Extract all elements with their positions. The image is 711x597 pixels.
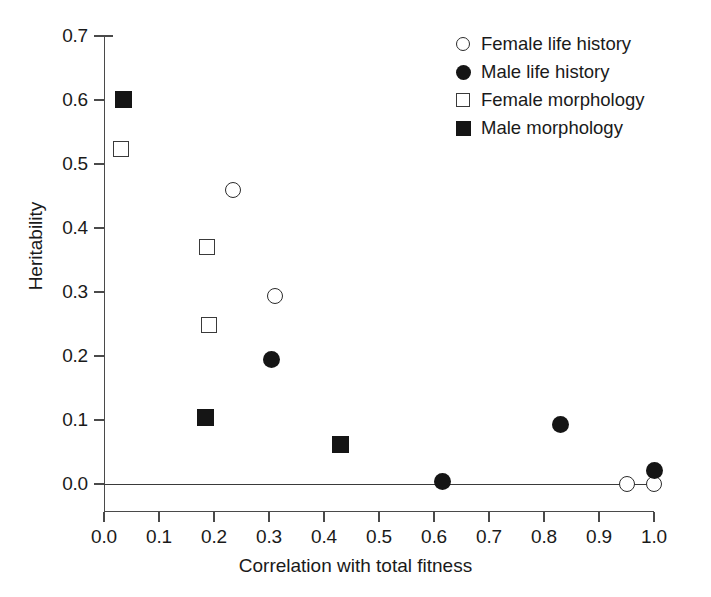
- data-point: [332, 436, 349, 453]
- x-axis-tick-label: 0.4: [294, 527, 354, 546]
- x-axis-tick: [488, 512, 490, 522]
- x-axis-tick-label: 0.3: [239, 527, 299, 546]
- x-axis-tick-label: 0.0: [74, 527, 134, 546]
- data-point: [267, 288, 283, 304]
- x-axis-tick: [598, 512, 600, 522]
- y-axis-tick: [94, 35, 104, 37]
- data-point: [646, 462, 663, 479]
- data-point: [199, 239, 215, 255]
- square-filled-icon: [452, 117, 474, 139]
- x-axis-tick: [268, 512, 270, 522]
- y-axis-tick: [94, 355, 104, 357]
- legend-marker-glyph: [456, 121, 471, 136]
- legend-marker-glyph: [456, 65, 471, 80]
- legend-marker-glyph: [456, 93, 470, 107]
- circle-open-icon: [452, 33, 474, 55]
- data-point: [434, 473, 451, 490]
- data-point: [552, 416, 569, 433]
- y-axis-label: Heritability: [26, 146, 46, 346]
- y-axis-tick: [94, 419, 104, 421]
- y-axis-tick-label: 0.6: [26, 90, 88, 109]
- x-axis-tick: [433, 512, 435, 522]
- legend-entry-label: Female morphology: [481, 90, 645, 110]
- x-axis-tick-label: 0.8: [514, 527, 574, 546]
- scatter-plot-figure: 0.00.10.20.30.40.50.60.7 0.00.10.20.30.4…: [0, 0, 711, 597]
- legend-entry: Female life history: [452, 30, 702, 58]
- x-axis-tick-label: 0.9: [569, 527, 629, 546]
- data-point: [619, 476, 635, 492]
- legend-entry-label: Male morphology: [481, 118, 623, 138]
- y-axis-tick: [94, 163, 104, 165]
- x-axis-tick: [158, 512, 160, 522]
- data-point: [201, 317, 217, 333]
- data-point: [115, 91, 132, 108]
- legend: Female life historyMale life historyFema…: [452, 30, 702, 142]
- circle-filled-icon: [452, 61, 474, 83]
- y-axis-tick-label: 0.0: [26, 474, 88, 493]
- x-axis-tick-label: 1.0: [624, 527, 684, 546]
- legend-entry-label: Male life history: [481, 62, 610, 82]
- x-axis-label: Correlation with total fitness: [0, 556, 711, 576]
- zero-reference-line: [104, 484, 656, 485]
- y-axis-tick: [94, 291, 104, 293]
- data-point: [197, 409, 214, 426]
- x-axis-tick: [653, 512, 655, 522]
- data-point: [113, 141, 129, 157]
- x-axis-tick: [103, 512, 105, 522]
- square-open-icon: [452, 89, 474, 111]
- y-axis-tick-label: 0.2: [26, 346, 88, 365]
- x-axis-tick-label: 0.2: [184, 527, 244, 546]
- x-axis-tick-label: 0.6: [404, 527, 464, 546]
- y-axis-tick: [94, 99, 104, 101]
- y-axis-tick-label: 0.1: [26, 410, 88, 429]
- x-axis-tick-label: 0.5: [349, 527, 409, 546]
- legend-entry: Male life history: [452, 58, 702, 86]
- legend-entry-label: Female life history: [481, 34, 631, 54]
- x-axis-tick: [378, 512, 380, 522]
- x-axis-tick: [213, 512, 215, 522]
- legend-marker-glyph: [456, 37, 470, 51]
- data-point: [225, 182, 241, 198]
- legend-entry: Female morphology: [452, 86, 702, 114]
- x-axis-tick: [323, 512, 325, 522]
- legend-entry: Male morphology: [452, 114, 702, 142]
- x-axis-tick-label: 0.1: [129, 527, 189, 546]
- x-axis-tick: [543, 512, 545, 522]
- y-axis-tick: [94, 483, 104, 485]
- x-axis-tick-label: 0.7: [459, 527, 519, 546]
- y-axis-tick: [94, 227, 104, 229]
- y-axis-tick-label: 0.7: [26, 26, 88, 45]
